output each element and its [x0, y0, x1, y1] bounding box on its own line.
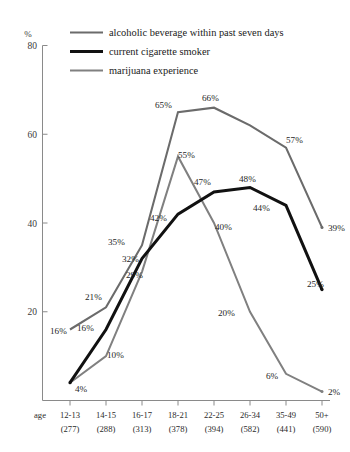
data-label-alcohol-18-21: 65% — [155, 100, 172, 110]
legend-item-alcohol[interactable]: alcoholic beverage within past seven day… — [70, 27, 284, 38]
y-axis-unit-label: % — [24, 29, 32, 39]
x-count-label-3: (378) — [169, 424, 188, 434]
legend-item-marijuana[interactable]: marijuana experience — [70, 65, 199, 76]
data-label-cigarette-14-15: 16% — [77, 323, 94, 333]
x-count-label-2: (313) — [133, 424, 152, 434]
y-tick-label-40: 40 — [28, 219, 38, 229]
data-label-cigarette-26-34: 48% — [239, 174, 256, 184]
x-count-label-5: (582) — [241, 424, 260, 434]
data-label-cigarette-35-49: 44% — [253, 203, 270, 213]
x-count-label-1: (288) — [97, 424, 116, 434]
x-cat-label-3: 18-21 — [168, 410, 188, 420]
data-label-marijuana-16-17: 29% — [126, 270, 143, 280]
legend-label-cigarette: current cigarette smoker — [109, 46, 211, 57]
x-cat-label-5: 26-34 — [240, 410, 261, 420]
legend-item-cigarette[interactable]: current cigarette smoker — [70, 46, 211, 57]
data-label-alcohol-14-15: 21% — [85, 292, 102, 302]
x-cat-label-1: 14-15 — [96, 410, 116, 420]
data-label-marijuana-26-34: 20% — [218, 308, 235, 318]
data-label-marijuana-22-25: 40% — [215, 222, 232, 232]
data-label-marijuana-35-49: 6% — [266, 371, 279, 381]
chart-container: % 80 60 40 20 age 12-13 14-15 16-17 18-2… — [0, 0, 350, 452]
series-point-alcohol-end — [321, 226, 324, 229]
data-label-cigarette-22-25: 47% — [194, 177, 211, 187]
x-cat-label-4: 22-25 — [204, 410, 224, 420]
axes-group — [43, 46, 331, 406]
x-cat-label-0: 12-13 — [60, 410, 80, 420]
series-line-alcoholic-beverage — [70, 108, 322, 330]
y-tick-label-80: 80 — [28, 41, 38, 51]
axis-lines — [43, 46, 331, 401]
data-label-cigarette-16-17: 32% — [122, 254, 139, 264]
x-cat-label-2: 16-17 — [132, 410, 153, 420]
legend-label-alcohol: alcoholic beverage within past seven day… — [109, 27, 284, 38]
x-axis-name-label: age — [34, 410, 46, 420]
data-label-alcohol-22-25: 66% — [202, 93, 219, 103]
data-label-alcohol-12-13: 16% — [50, 326, 67, 336]
data-label-alcohol-50plus: 39% — [328, 223, 345, 233]
data-label-alcohol-35-49: 57% — [286, 135, 303, 145]
x-cat-label-6: 35-49 — [276, 410, 296, 420]
legend: alcoholic beverage within past seven day… — [70, 27, 284, 76]
series-point-marijuana-end — [321, 390, 324, 393]
data-label-cigarette-18-21: 42% — [150, 213, 167, 223]
x-count-label-0: (277) — [61, 424, 80, 434]
data-label-marijuana-18-21: 55% — [178, 150, 195, 160]
x-count-label-4: (394) — [205, 424, 224, 434]
line-chart-svg: % 80 60 40 20 age 12-13 14-15 16-17 18-2… — [0, 0, 350, 452]
x-count-label-7: (590) — [313, 424, 332, 434]
x-count-label-6: (441) — [277, 424, 296, 434]
data-label-cigarette-12-13: 4% — [75, 384, 88, 394]
legend-label-marijuana: marijuana experience — [109, 65, 199, 76]
data-label-alcohol-16-17: 35% — [108, 237, 125, 247]
data-label-cigarette-50plus: 25% — [307, 279, 324, 289]
series-point-cigarette-start — [68, 381, 71, 384]
data-label-marijuana-14-15: 10% — [107, 350, 124, 360]
x-cat-label-7: 50+ — [315, 410, 329, 420]
y-tick-label-60: 60 — [28, 130, 38, 140]
y-tick-label-20: 20 — [28, 307, 38, 317]
data-label-marijuana-50plus: 2% — [328, 387, 341, 397]
